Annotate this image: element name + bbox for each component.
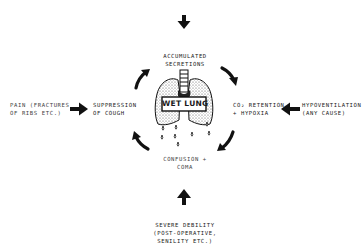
arrow-up-icon [177, 189, 191, 205]
input-line: OF RIBS ETC.) [10, 109, 70, 117]
node-line: COMA [150, 163, 220, 171]
node-line: CO₂ RETENTION [233, 101, 285, 109]
input-pain: PAIN (FRACTURES OF RIBS ETC.) [10, 101, 70, 117]
node-line: + HYPOXIA [233, 109, 285, 117]
input-line: SENILITY ETC.) [140, 237, 230, 245]
input-line: SEVERE DEBILITY [140, 221, 230, 229]
node-co2-retention: CO₂ RETENTION + HYPOXIA [233, 101, 285, 117]
node-line: SECRETIONS [150, 60, 220, 68]
node-suppression-of-cough: SUPPRESSION OF COUGH [93, 101, 137, 117]
center-label: WET LUNG [162, 99, 206, 109]
cycle-arrow-down-left-icon [217, 132, 233, 151]
node-line: CONFUSION + [150, 155, 220, 163]
input-severe-debility: SEVERE DEBILITY (POST-OPERATIVE, SENILIT… [140, 221, 230, 245]
node-line: SUPPRESSION [93, 101, 137, 109]
input-line: HYPOVENTILATION [302, 101, 362, 109]
arrow-right-icon [70, 103, 88, 116]
node-line: ACCUMULATED [150, 52, 220, 60]
diagram-graphics [0, 0, 364, 252]
cycle-arrow-up-right-icon [136, 69, 150, 88]
arrow-down-icon [178, 15, 191, 29]
center-label-text: WET LUNG [162, 99, 209, 108]
input-line: PAIN (FRACTURES [10, 101, 70, 109]
input-line: (POST-OPERATIVE, [140, 229, 230, 237]
input-hypoventilation: HYPOVENTILATION (ANY CAUSE) [302, 101, 362, 117]
node-confusion-coma: CONFUSION + COMA [150, 155, 220, 171]
node-line: OF COUGH [93, 109, 137, 117]
node-accumulated-secretions: ACCUMULATED SECRETIONS [150, 52, 220, 68]
cycle-arrow-down-right-icon [222, 68, 238, 86]
cycle-arrow-up-left-icon [132, 131, 148, 149]
input-line: (ANY CAUSE) [302, 109, 362, 117]
